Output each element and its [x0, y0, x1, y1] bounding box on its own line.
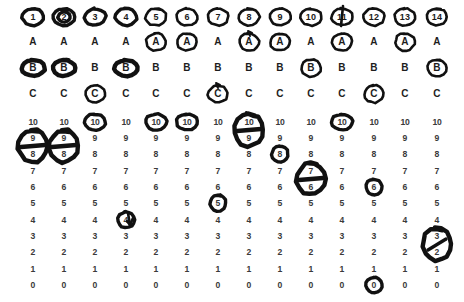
scale-value-col-5-0: 0 [154, 281, 159, 290]
scale-value-col-14-6: 6 [435, 183, 440, 192]
scale-value-col-9-1: 1 [278, 265, 283, 274]
option-c-col-9: C [276, 89, 283, 99]
option-b-col-4: B [122, 63, 129, 73]
scale-value-col-10-6: 6 [309, 183, 314, 192]
option-b-col-8: B [245, 63, 252, 73]
scale-value-col-10-5: 5 [309, 199, 314, 208]
scale-value-col-10-2: 2 [309, 248, 314, 257]
scale-value-col-1-9: 9 [31, 134, 36, 143]
span-oval-col-2-9-8 [41, 122, 87, 170]
scale-value-col-8-3: 3 [247, 232, 252, 241]
scale-value-col-5-6: 6 [154, 183, 159, 192]
scale-value-col-2-1: 1 [62, 265, 67, 274]
scale-value-col-3-9: 9 [93, 134, 98, 143]
option-a-col-10: A [307, 37, 314, 47]
option-c-col-6: C [183, 89, 190, 99]
scale-value-col-10-4: 4 [309, 216, 314, 225]
option-b-col-11: B [338, 63, 345, 73]
scale-value-col-1-6: 6 [31, 183, 36, 192]
header-item-number: 8 [246, 13, 251, 22]
header-item-number: 13 [400, 13, 410, 22]
scale-value-col-9-9: 9 [278, 134, 283, 143]
scale-value-col-10-10: 10 [307, 118, 316, 127]
scale-value-col-11-0: 0 [340, 281, 345, 290]
header-item-number: 9 [277, 13, 282, 22]
header-item-number: 7 [215, 13, 220, 22]
scale-value-col-14-4: 4 [435, 216, 440, 225]
option-a-col-2: A [60, 37, 67, 47]
scale-value-col-8-4: 4 [247, 216, 252, 225]
scale-value-col-3-2: 2 [93, 248, 98, 257]
option-b-col-6: B [183, 63, 190, 73]
scale-value-col-13-7: 7 [403, 167, 408, 176]
scale-value-col-9-0: 0 [278, 281, 283, 290]
scale-value-col-6-5: 5 [185, 199, 190, 208]
scale-value-col-10-8: 8 [309, 150, 314, 159]
header-item-number: 10 [306, 13, 316, 22]
scale-value-col-9-3: 3 [278, 232, 283, 241]
option-a-col-13: A [401, 37, 408, 47]
option-a-col-6: A [183, 37, 190, 47]
option-b-col-10: B [307, 63, 314, 73]
scale-value-col-11-1: 1 [340, 265, 345, 274]
scale-value-col-8-9: 9 [247, 134, 252, 143]
scale-value-col-13-8: 8 [403, 150, 408, 159]
scale-value-col-7-2: 2 [216, 248, 221, 257]
scale-value-col-12-2: 2 [372, 248, 377, 257]
scale-value-col-12-1: 1 [372, 265, 377, 274]
scale-value-col-2-0: 0 [62, 281, 67, 290]
scale-value-col-7-10: 10 [214, 118, 223, 127]
scale-value-col-10-9: 9 [309, 134, 314, 143]
scale-value-col-2-8: 8 [62, 150, 67, 159]
scale-value-col-14-7: 7 [435, 167, 440, 176]
span-oval-col-8-10-9 [226, 106, 272, 154]
scale-value-col-4-10: 10 [122, 118, 131, 127]
scale-value-col-13-1: 1 [403, 265, 408, 274]
scale-value-col-4-1: 1 [124, 265, 129, 274]
scale-value-col-4-7: 7 [124, 167, 129, 176]
scale-value-col-6-3: 3 [185, 232, 190, 241]
scale-value-col-9-5: 5 [278, 199, 283, 208]
scale-value-col-9-8: 8 [278, 150, 283, 159]
scale-value-col-8-8: 8 [247, 150, 252, 159]
option-c-col-14: C [433, 89, 440, 99]
scale-value-col-13-9: 9 [403, 134, 408, 143]
scale-value-col-11-7: 7 [340, 167, 345, 176]
option-b-col-7: B [214, 63, 221, 73]
scale-value-col-11-4: 4 [340, 216, 345, 225]
scale-value-col-8-5: 5 [247, 199, 252, 208]
scale-value-col-12-8: 8 [372, 150, 377, 159]
scale-value-col-2-5: 5 [62, 199, 67, 208]
scale-value-col-12-10: 10 [370, 118, 379, 127]
scale-value-col-1-10: 10 [29, 118, 38, 127]
scale-value-col-2-9: 9 [62, 134, 67, 143]
option-b-col-2: B [60, 63, 67, 73]
scale-value-col-3-6: 6 [93, 183, 98, 192]
scale-value-col-14-8: 8 [435, 150, 440, 159]
option-a-col-3: A [91, 37, 98, 47]
scale-value-col-6-6: 6 [185, 183, 190, 192]
scale-value-col-4-2: 2 [124, 248, 129, 257]
scale-value-col-9-2: 2 [278, 248, 283, 257]
scale-value-col-11-2: 2 [340, 248, 345, 257]
scale-value-col-7-7: 7 [216, 167, 221, 176]
scale-value-col-4-6: 6 [124, 183, 129, 192]
scale-value-col-14-2: 2 [435, 248, 440, 257]
scale-value-col-6-7: 7 [185, 167, 190, 176]
scale-value-col-5-1: 1 [154, 265, 159, 274]
header-item-number: 3 [92, 13, 97, 22]
scale-value-col-11-10: 10 [338, 118, 347, 127]
scale-value-col-3-0: 0 [93, 281, 98, 290]
option-c-col-12: C [370, 89, 377, 99]
span-oval-col-14-3-2 [414, 220, 460, 268]
scale-value-col-1-7: 7 [31, 167, 36, 176]
scale-value-col-1-1: 1 [31, 265, 36, 274]
scale-value-col-3-7: 7 [93, 167, 98, 176]
scale-value-col-14-5: 5 [435, 199, 440, 208]
scale-value-col-11-9: 9 [340, 134, 345, 143]
scale-value-col-5-4: 4 [154, 216, 159, 225]
scale-value-col-6-0: 0 [185, 281, 190, 290]
scale-value-col-7-9: 9 [216, 134, 221, 143]
option-a-col-7: A [214, 37, 221, 47]
option-a-col-12: A [370, 37, 377, 47]
